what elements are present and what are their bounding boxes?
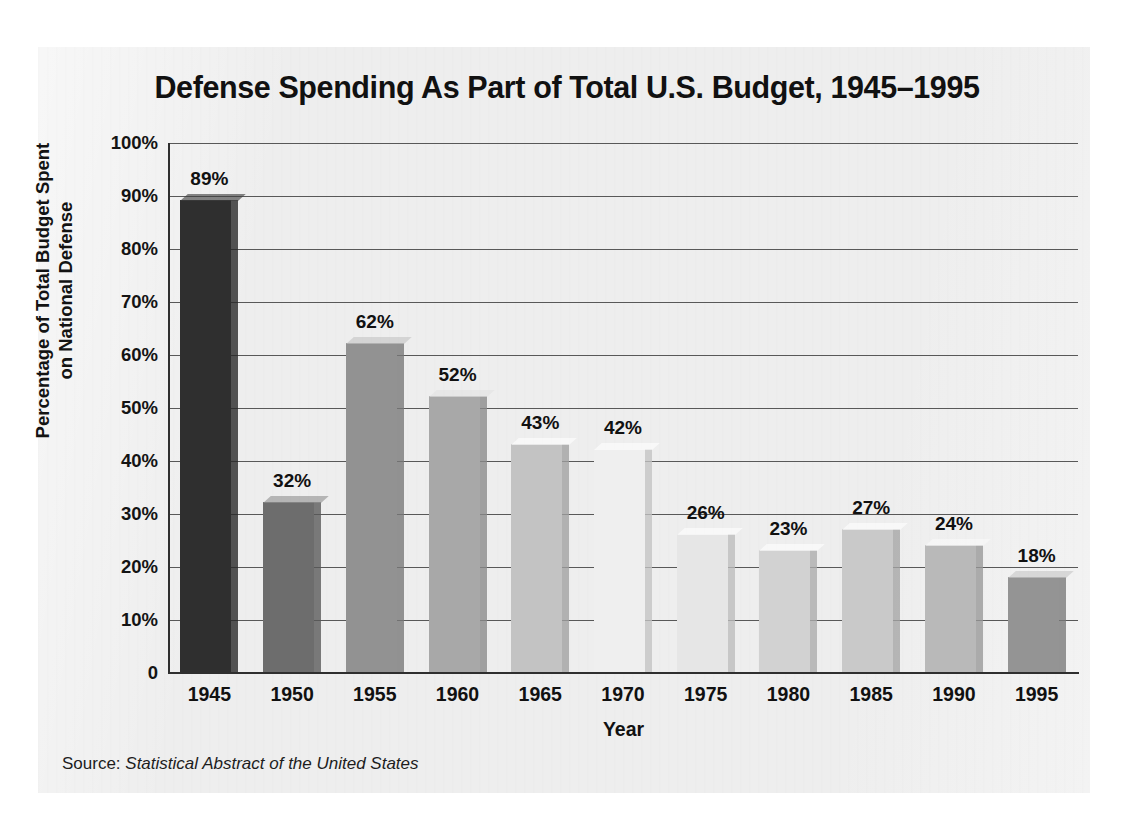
- bar-body: [842, 523, 900, 673]
- y-axis-tick-label: 0: [78, 662, 158, 684]
- y-axis-title-line1: Percentage of Total Budget Spent: [32, 81, 55, 501]
- x-axis-tick-label: 1975: [664, 683, 747, 706]
- bar-side-face: [1059, 577, 1066, 673]
- bar-value-label: 26%: [667, 502, 745, 524]
- bar-1990[interactable]: 24%: [925, 538, 983, 673]
- x-axis-tick-label: 1950: [251, 683, 334, 706]
- bar-value-label: 62%: [336, 311, 414, 333]
- x-axis-tick-label: 1945: [168, 683, 251, 706]
- bar-top-face: [346, 337, 412, 344]
- x-axis-tick-label: 1980: [747, 683, 830, 706]
- x-axis-tick-label: 1970: [582, 683, 665, 706]
- bar-face: [429, 396, 480, 673]
- y-axis-tick-label: 20%: [78, 556, 158, 578]
- bar-side-face: [480, 396, 487, 673]
- bar-side-face: [314, 502, 321, 673]
- bar-top-face: [925, 539, 991, 546]
- bar-1980[interactable]: 23%: [759, 543, 817, 673]
- chart-title: Defense Spending As Part of Total U.S. B…: [52, 70, 1082, 105]
- bar-side-face: [397, 343, 404, 673]
- bar-value-label: 32%: [253, 470, 331, 492]
- gridline: [168, 143, 1078, 144]
- bar-1975[interactable]: 26%: [677, 527, 735, 673]
- bar-side-face: [562, 444, 569, 673]
- bar-value-label: 27%: [832, 497, 910, 519]
- plot-area: 89%32%62%52%43%42%26%23%27%24%18%: [168, 143, 1078, 673]
- bar-1950[interactable]: 32%: [263, 495, 321, 673]
- x-axis-tick-label: 1955: [333, 683, 416, 706]
- y-axis-tick-label: 30%: [78, 503, 158, 525]
- y-axis-line: [168, 143, 170, 674]
- x-axis-title: Year: [168, 718, 1079, 741]
- bar-side-face: [231, 200, 238, 673]
- bar-1965[interactable]: 43%: [511, 437, 569, 673]
- x-axis-tick-label: 1965: [499, 683, 582, 706]
- bar-top-face: [1008, 571, 1074, 578]
- bar-body: [677, 528, 735, 673]
- y-axis-tick-label: 70%: [78, 291, 158, 313]
- bar-face: [842, 529, 893, 673]
- bar-side-face: [976, 545, 983, 673]
- bar-1970[interactable]: 42%: [594, 442, 652, 673]
- bar-top-face: [759, 544, 825, 551]
- bar-1960[interactable]: 52%: [429, 389, 487, 673]
- bar-body: [346, 337, 404, 673]
- bar-value-label: 52%: [419, 364, 497, 386]
- bar-face: [1008, 577, 1059, 673]
- bar-face: [594, 449, 645, 673]
- bar-face: [263, 502, 314, 673]
- bar-face: [925, 545, 976, 673]
- bar-face: [759, 550, 810, 673]
- bar-body: [429, 390, 487, 673]
- bar-value-label: 89%: [170, 168, 248, 190]
- bar-top-face: [594, 443, 660, 450]
- bar-side-face: [645, 449, 652, 673]
- bar-1985[interactable]: 27%: [842, 522, 900, 673]
- source-note: Source: Statistical Abstract of the Unit…: [62, 754, 419, 774]
- x-axis-tick-label: 1995: [995, 683, 1078, 706]
- bar-value-label: 43%: [501, 412, 579, 434]
- gridline: [168, 249, 1078, 250]
- bar-side-face: [810, 550, 817, 673]
- x-axis-tick-label: 1960: [416, 683, 499, 706]
- bar-body: [1008, 571, 1066, 673]
- bar-top-face: [677, 528, 743, 535]
- gridline: [168, 196, 1078, 197]
- bar-top-face: [511, 438, 577, 445]
- y-axis-tick-label: 40%: [78, 450, 158, 472]
- bar-top-face: [263, 496, 329, 503]
- bar-side-face: [893, 529, 900, 673]
- bar-top-face: [180, 194, 246, 201]
- bar-body: [759, 544, 817, 673]
- bar-body: [263, 496, 321, 673]
- bar-face: [346, 343, 397, 673]
- bar-face: [511, 444, 562, 673]
- bar-body: [511, 438, 569, 673]
- y-axis-tick-label: 100%: [78, 132, 158, 154]
- x-axis-line: [168, 672, 1079, 674]
- bar-1945[interactable]: 89%: [180, 193, 238, 673]
- y-axis-ticks: 100%90%80%70%60%50%40%30%20%10%0: [72, 143, 158, 674]
- bar-body: [925, 539, 983, 673]
- bar-side-face: [728, 534, 735, 673]
- bar-top-face: [842, 523, 908, 530]
- gridline: [168, 408, 1078, 409]
- source-prefix: Source:: [62, 754, 125, 773]
- bar-face: [677, 534, 728, 673]
- y-axis-tick-label: 60%: [78, 344, 158, 366]
- bar-face: [180, 200, 231, 673]
- y-axis-tick-label: 50%: [78, 397, 158, 419]
- bar-top-face: [429, 390, 495, 397]
- y-axis-tick-label: 90%: [78, 185, 158, 207]
- y-axis-title: Percentage of Total Budget Spent on Nati…: [32, 81, 77, 501]
- bar-value-label: 24%: [915, 513, 993, 535]
- bar-body: [594, 443, 652, 673]
- gridline: [168, 302, 1078, 303]
- bar-1955[interactable]: 62%: [346, 336, 404, 673]
- bar-1995[interactable]: 18%: [1008, 570, 1066, 673]
- gridline: [168, 355, 1078, 356]
- x-axis-tick-label: 1985: [830, 683, 913, 706]
- y-axis-tick-label: 80%: [78, 238, 158, 260]
- bar-body: [180, 194, 238, 673]
- bar-value-label: 42%: [584, 417, 662, 439]
